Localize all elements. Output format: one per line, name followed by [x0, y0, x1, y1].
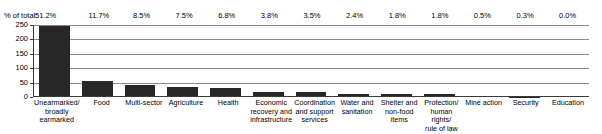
bar-slot [546, 25, 589, 97]
y-axis-tick-label: 250 [15, 21, 28, 29]
x-axis-category-label: Agriculture [165, 99, 207, 134]
bar-slot [76, 25, 119, 97]
percent-value: 3.5% [291, 9, 334, 22]
bar-series [33, 25, 589, 97]
x-axis-category-label: Protection/ human rights/ rule of law [420, 99, 462, 134]
percent-value: 1.8% [418, 9, 461, 22]
percent-value: 0.5% [461, 9, 504, 22]
x-axis-category-label: Water and sanitation [336, 99, 378, 134]
percent-value: 8.5% [120, 9, 163, 22]
bar-slot [418, 25, 461, 97]
bar [167, 87, 198, 97]
x-axis-category-label: Mine action [462, 99, 504, 134]
bar-slot [503, 25, 546, 97]
bar-slot [119, 25, 162, 97]
percent-value: 0.0% [546, 9, 589, 22]
bar [424, 94, 455, 97]
bar-slot [247, 25, 290, 97]
x-axis-category-label: Multi-sector [123, 99, 165, 134]
bar-slot [33, 25, 76, 97]
bar [381, 94, 412, 97]
x-axis-category-label: Economic recovery and infrastructure [249, 99, 293, 134]
bar-slot [204, 25, 247, 97]
x-axis-category-label: Unearmarked/ broadly earmarked [33, 99, 81, 134]
bar [210, 88, 241, 98]
y-axis: 050100150200250 [0, 25, 33, 97]
percent-value: 0.3% [504, 9, 547, 22]
percent-of-total-row: % of total: 51.2%11.7%8.5%7.5%6.8%3.8%3.… [0, 9, 602, 22]
y-axis-tick-label: 150 [15, 50, 28, 58]
bar-slot [161, 25, 204, 97]
plot-area [33, 25, 589, 97]
bar-chart: % of total: 51.2%11.7%8.5%7.5%6.8%3.8%3.… [0, 0, 602, 134]
bar [39, 26, 70, 97]
bar [82, 81, 113, 97]
bar-slot [461, 25, 504, 97]
x-axis-category-labels: Unearmarked/ broadly earmarkedFoodMulti-… [33, 99, 589, 134]
percent-value: 6.8% [205, 9, 248, 22]
bar [338, 94, 369, 97]
y-axis-tick-label: 0 [24, 93, 28, 101]
x-axis-category-label: Coordination and support services [293, 99, 336, 134]
bar [125, 85, 156, 97]
percent-value: 1.8% [376, 9, 419, 22]
bar-slot [290, 25, 333, 97]
y-axis-tick-label: 200 [15, 35, 28, 43]
x-axis-category-label: Education [547, 99, 589, 134]
bar [296, 92, 327, 97]
percent-value: 3.8% [248, 9, 291, 22]
x-axis-category-label: Health [207, 99, 249, 134]
x-axis-category-label: Security [505, 99, 547, 134]
y-axis-tick-mark [30, 97, 33, 98]
x-axis-category-label: Food [81, 99, 123, 134]
bar [253, 92, 284, 97]
percent-value: 7.5% [163, 9, 206, 22]
percent-value: 2.4% [333, 9, 376, 22]
percent-value-list: 51.2%11.7%8.5%7.5%6.8%3.8%3.5%2.4%1.8%1.… [33, 9, 589, 22]
percent-value: 11.7% [78, 9, 121, 22]
bar-slot [332, 25, 375, 97]
bar [467, 96, 498, 97]
y-axis-tick-label: 50 [20, 79, 28, 87]
y-axis-tick-label: 100 [15, 64, 28, 72]
percent-value: 51.2% [33, 9, 78, 22]
bar-slot [375, 25, 418, 97]
x-axis-category-label: Shelter and non-food items [378, 99, 420, 134]
